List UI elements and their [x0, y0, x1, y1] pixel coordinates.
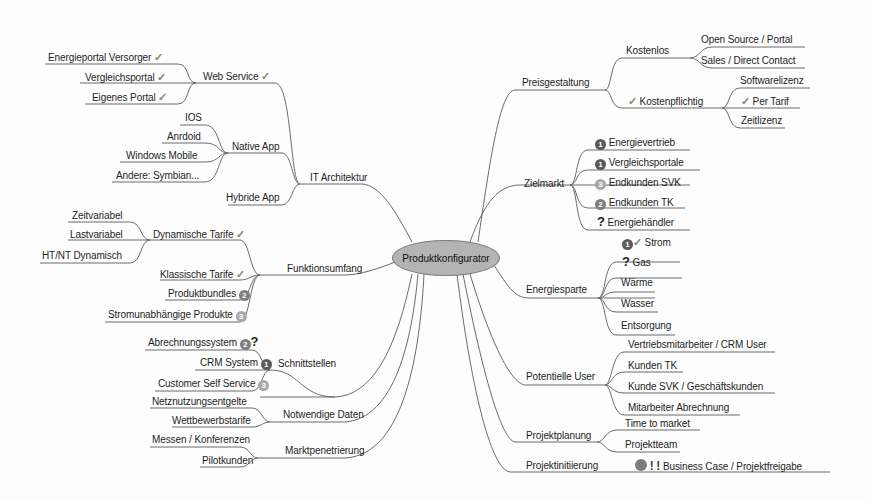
node-energiehaendler[interactable]: ? Energiehändler	[597, 216, 674, 229]
check-icon: ✓	[158, 91, 167, 103]
node-windows-mobile[interactable]: Windows Mobile	[126, 150, 197, 162]
node-zeitvariabel[interactable]: Zeitvariabel	[72, 210, 123, 222]
node-netznutzungsentgelte[interactable]: Netznutzungsentgelte	[152, 396, 247, 408]
node-label: IOS	[185, 112, 202, 123]
node-abrechnungssystem[interactable]: Abrechnungssystem 2?	[148, 336, 258, 350]
node-preisgestaltung[interactable]: Preisgestaltung	[522, 77, 589, 89]
node-zielmarkt[interactable]: Zielmarkt	[524, 178, 564, 190]
node-label: Wärme	[621, 277, 653, 288]
node-klassische-tarife[interactable]: Klassische Tarife ✓	[160, 268, 245, 281]
node-label: Klassische Tarife	[160, 269, 233, 280]
check-icon: ✓	[261, 70, 270, 82]
node-label: Vergleichsportale	[609, 157, 684, 168]
node-kostenpflichtig[interactable]: ✓ Kostenpflichtig	[628, 95, 703, 108]
node-label: Marktpenetrierung	[285, 445, 364, 456]
node-it-architektur[interactable]: IT Architektur	[310, 172, 367, 184]
question-icon: ?	[251, 334, 259, 349]
node-mitarbeiter-abrechnung[interactable]: Mitarbeiter Abrechnung	[628, 402, 729, 414]
node-lastvariabel[interactable]: Lastvariabel	[70, 229, 123, 241]
node-produktbundles[interactable]: Produktbundles 2	[168, 288, 250, 301]
node-label: CRM System	[200, 357, 258, 368]
node-web-service[interactable]: Web Service ✓	[203, 70, 270, 83]
node-label: Business Case / Projektfreigabe	[663, 461, 802, 472]
node-messen-konferenzen[interactable]: Messen / Konferenzen	[152, 434, 250, 446]
node-kunde-svk-geschaeftskunden[interactable]: Kunde SVK / Geschäftskunden	[628, 381, 763, 393]
node-label: Customer Self Service	[158, 378, 255, 389]
node-label: Messen / Konferenzen	[152, 434, 250, 445]
node-vergleichsportal[interactable]: Vergleichsportal ✓	[85, 71, 166, 84]
priority-3-icon: 3	[258, 380, 269, 391]
node-label: Endkunden SVK	[609, 177, 681, 188]
node-potentielle-user[interactable]: Potentielle User	[526, 371, 595, 383]
priority-2-icon: 2	[595, 199, 606, 210]
node-sales-direct-contact[interactable]: Sales / Direct Contact	[701, 55, 796, 67]
node-marktpenetrierung[interactable]: Marktpenetrierung	[285, 445, 364, 457]
node-ht-nt-dynamisch[interactable]: HT/NT Dynamisch	[42, 250, 122, 262]
node-label: Vertriebsmitarbeiter / CRM User	[628, 339, 767, 350]
node-vergleichsportale[interactable]: 1 Vergleichsportale	[595, 157, 684, 170]
node-projektplanung[interactable]: Projektplanung	[526, 430, 591, 442]
node-pilotkunden[interactable]: Pilotkunden	[202, 455, 253, 467]
node-per-tarif[interactable]: ✓ Per Tarif	[741, 95, 789, 108]
node-vertriebsmitarbeiter[interactable]: Vertriebsmitarbeiter / CRM User	[628, 339, 767, 351]
node-label: Gas	[633, 257, 651, 268]
node-label: Mitarbeiter Abrechnung	[628, 402, 729, 413]
node-label: Web Service	[203, 71, 258, 82]
node-crm-system[interactable]: CRM System 1	[200, 357, 272, 370]
check-icon: ✓	[236, 268, 245, 280]
node-label: Endkunden TK	[609, 197, 674, 208]
check-icon: ✓	[157, 71, 166, 83]
node-ios[interactable]: IOS	[185, 112, 202, 124]
priority-3-icon: 3	[236, 311, 247, 322]
node-business-case[interactable]: ! ! Business Case / Projektfreigabe	[635, 459, 802, 473]
node-energiesparte[interactable]: Energiesparte	[526, 284, 587, 296]
node-eigenes-portal[interactable]: Eigenes Portal ✓	[92, 91, 167, 104]
node-native-app[interactable]: Native App	[232, 141, 279, 153]
node-energievertrieb[interactable]: 1 Energievertrieb	[595, 137, 675, 150]
node-kostenlos[interactable]: Kostenlos	[626, 45, 669, 57]
node-funktionsumfang[interactable]: Funktionsumfang	[287, 263, 362, 275]
node-android[interactable]: Anrdoid	[167, 131, 201, 143]
node-endkunden-svk[interactable]: 3 Endkunden SVK	[595, 177, 681, 190]
node-open-source-portal[interactable]: Open Source / Portal	[701, 34, 792, 46]
node-endkunden-tk[interactable]: 2 Endkunden TK	[595, 197, 673, 210]
node-label: Windows Mobile	[126, 150, 197, 161]
node-stromunabhaengige-produkte[interactable]: Stromunabhängige Produkte 3	[108, 309, 247, 322]
node-kunden-tk[interactable]: Kunden TK	[628, 360, 677, 372]
node-label: Vergleichsportal	[85, 72, 155, 83]
node-label: Wasser	[621, 298, 654, 309]
question-icon: ?	[597, 214, 605, 229]
priority-1-icon: 1	[622, 239, 633, 250]
node-energieportal-versorger[interactable]: Energieportal Versorger ✓	[48, 51, 163, 64]
node-zeitlizenz[interactable]: Zeitlizenz	[741, 115, 782, 127]
node-notwendige-daten[interactable]: Notwendige Daten	[283, 409, 364, 421]
node-label: Anrdoid	[167, 131, 201, 142]
node-label: Produktbundles	[168, 288, 236, 299]
node-label: Entsorgung	[621, 320, 671, 331]
node-wettbewerbstarife[interactable]: Wettbewerbstarife	[172, 415, 251, 427]
node-hybride-app[interactable]: Hybride App	[226, 192, 279, 204]
node-label: Wettbewerbstarife	[172, 415, 251, 426]
node-projektinitiierung[interactable]: Projektinitiierung	[526, 460, 598, 472]
node-label: Native App	[232, 141, 279, 152]
node-andere-symbian[interactable]: Andere: Symbian...	[116, 170, 199, 182]
node-waerme[interactable]: Wärme	[621, 277, 653, 289]
node-label: Zielmarkt	[524, 178, 564, 189]
node-label: Kostenlos	[626, 45, 669, 56]
check-icon: ✓	[628, 95, 637, 107]
node-gas[interactable]: ? Gas	[622, 256, 651, 269]
node-entsorgung[interactable]: Entsorgung	[621, 320, 671, 332]
node-wasser[interactable]: Wasser	[621, 298, 654, 310]
node-label: Pilotkunden	[202, 455, 253, 466]
node-softwarelizenz[interactable]: Softwarelizenz	[740, 75, 804, 87]
node-time-to-market[interactable]: Time to market	[625, 418, 690, 430]
node-label: IT Architektur	[310, 172, 367, 183]
priority-3-icon: 3	[595, 179, 606, 190]
priority-1-icon: 1	[595, 159, 606, 170]
central-node[interactable]: Produktkonfigurator	[392, 240, 500, 276]
node-customer-self-service[interactable]: Customer Self Service 3	[158, 378, 269, 391]
node-projektteam[interactable]: Projektteam	[625, 439, 677, 451]
node-strom[interactable]: 1✓ Strom	[622, 236, 671, 250]
node-dynamische-tarife[interactable]: Dynamische Tarife ✓	[153, 228, 245, 241]
node-schnittstellen[interactable]: Schnittstellen	[278, 358, 336, 370]
